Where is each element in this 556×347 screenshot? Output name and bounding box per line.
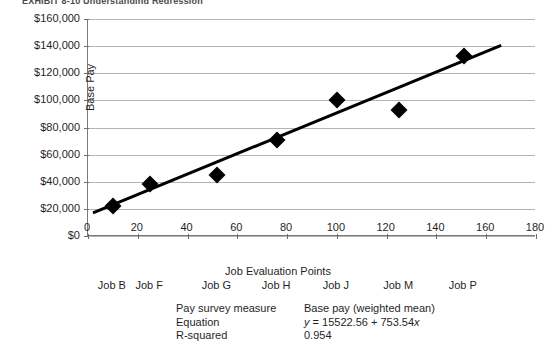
y-tick-label: $120,000	[2, 66, 80, 78]
x-tick-label: 140	[415, 221, 455, 233]
gridline	[88, 155, 535, 156]
job-label: Job H	[246, 279, 306, 291]
data-point	[455, 47, 472, 64]
x-tick-mark	[88, 234, 89, 239]
x-tick-mark	[188, 234, 189, 239]
x-tick-mark	[138, 234, 139, 239]
gridline	[88, 73, 535, 74]
x-tick-mark	[536, 234, 537, 239]
table-row: R-squared 0.954	[176, 329, 435, 343]
table-row: Equation y = 15522.56 + 753.54x	[176, 316, 435, 330]
y-tick-mark	[84, 209, 89, 210]
summary-key: Pay survey measure	[176, 302, 304, 316]
summary-key: R-squared	[176, 329, 304, 343]
data-point	[328, 92, 345, 109]
table-row: Pay survey measure Base pay (weighted me…	[176, 302, 435, 316]
job-label: Job F	[119, 279, 179, 291]
x-tick-mark	[287, 234, 288, 239]
x-tick-label: 40	[167, 221, 207, 233]
y-axis-label: Base Pay	[84, 64, 96, 111]
y-tick-label: $60,000	[2, 148, 80, 160]
summary-value: Base pay (weighted mean)	[304, 302, 435, 316]
x-tick-label: 160	[465, 221, 505, 233]
x-tick-label: 0	[67, 221, 107, 233]
x-tick-mark	[436, 234, 437, 239]
y-tick-label: $140,000	[2, 39, 80, 51]
summary-key: Equation	[176, 316, 304, 330]
gridline	[88, 100, 535, 101]
exhibit-title: EXHIBIT 8-10 Understanding Regression	[22, 0, 203, 4]
gridline	[88, 209, 535, 210]
x-tick-label: 20	[117, 221, 157, 233]
y-tick-mark	[84, 19, 89, 20]
y-tick-label: $160,000	[2, 12, 80, 24]
summary-value: 0.954	[304, 329, 332, 343]
x-tick-mark	[237, 234, 238, 239]
x-tick-label: 80	[266, 221, 306, 233]
job-label: Job J	[306, 279, 366, 291]
x-tick-mark	[387, 234, 388, 239]
job-label: Job G	[186, 279, 246, 291]
x-tick-label: 100	[316, 221, 356, 233]
data-point	[391, 101, 408, 118]
gridline	[88, 46, 535, 47]
plot-top-edge	[88, 19, 535, 20]
gridline	[88, 236, 535, 237]
job-label: Job M	[368, 279, 428, 291]
x-axis-label: Job Evaluation Points	[0, 265, 556, 277]
x-tick-mark	[486, 234, 487, 239]
data-point	[269, 131, 286, 148]
y-tick-mark	[84, 182, 89, 183]
y-tick-mark	[84, 155, 89, 156]
data-point	[142, 176, 159, 193]
y-tick-label: $80,000	[2, 121, 80, 133]
data-point	[104, 198, 121, 215]
y-tick-label: $20,000	[2, 202, 80, 214]
x-tick-label: 120	[366, 221, 406, 233]
regression-chart-figure: EXHIBIT 8-10 Understanding Regression Ba…	[0, 0, 556, 347]
y-tick-label: $100,000	[2, 93, 80, 105]
plot-area: Base Pay	[87, 19, 535, 236]
job-label: Job P	[433, 279, 493, 291]
summary-value: y = 15522.56 + 753.54x	[304, 316, 420, 330]
gridline	[88, 128, 535, 129]
x-tick-label: 180	[515, 221, 555, 233]
x-tick-label: 60	[216, 221, 256, 233]
y-tick-mark	[84, 128, 89, 129]
summary-table: Pay survey measure Base pay (weighted me…	[176, 302, 435, 343]
y-tick-mark	[84, 46, 89, 47]
y-tick-label: $40,000	[2, 175, 80, 187]
x-tick-mark	[337, 234, 338, 239]
